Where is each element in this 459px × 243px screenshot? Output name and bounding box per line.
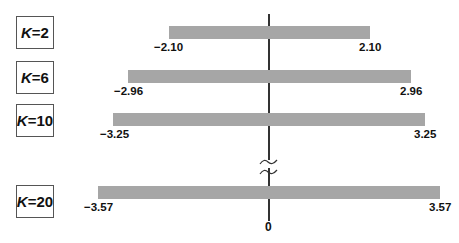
high-value-k10: 3.25 xyxy=(414,128,436,140)
high-value-k2: 2.10 xyxy=(359,41,381,53)
low-value-k20: −3.57 xyxy=(84,201,113,213)
k-symbol: K xyxy=(21,24,32,41)
zero-axis-label: 0 xyxy=(265,220,272,234)
row-label-k6: K=6 xyxy=(16,61,54,94)
low-value-k10: −3.25 xyxy=(100,128,129,140)
k-symbol: K xyxy=(21,69,32,86)
k-value: =10 xyxy=(28,112,53,129)
k-value: =20 xyxy=(28,193,53,210)
k-value: =6 xyxy=(32,69,49,86)
row-label-k10: K=10 xyxy=(16,104,54,137)
low-value-k6: −2.96 xyxy=(114,85,143,97)
axis-break-icon xyxy=(258,156,280,180)
row-label-k20: K=20 xyxy=(16,185,54,218)
range-bar-k20 xyxy=(98,186,440,199)
k-value: =2 xyxy=(32,24,49,41)
high-value-k20: 3.57 xyxy=(429,201,451,213)
range-bar-k10 xyxy=(113,113,425,126)
row-label-k2: K=2 xyxy=(16,16,54,49)
k-symbol: K xyxy=(17,112,28,129)
k-symbol: K xyxy=(17,193,28,210)
range-bar-k6 xyxy=(128,70,411,83)
high-value-k6: 2.96 xyxy=(400,85,422,97)
low-value-k2: −2.10 xyxy=(154,41,183,53)
range-bar-k2 xyxy=(169,26,370,39)
